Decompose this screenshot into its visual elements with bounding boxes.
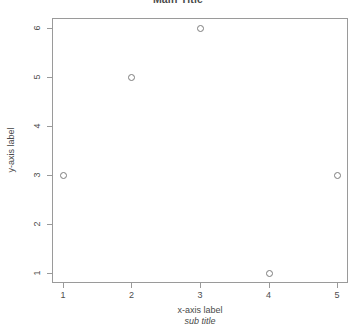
- chart-sub-title: sub title: [52, 316, 348, 326]
- data-point: [60, 172, 67, 179]
- plot-data-area: [52, 18, 348, 283]
- scatter-plot-figure: Main Title 12345123456 x-axis label sub …: [0, 0, 356, 335]
- x-axis-tick-label: 1: [60, 290, 65, 300]
- x-axis-tick: [63, 283, 64, 288]
- data-point: [128, 74, 135, 81]
- x-axis-tick-label: 5: [335, 290, 340, 300]
- y-axis-tick-label: 3: [32, 169, 42, 181]
- y-axis-tick-label: 2: [32, 218, 42, 230]
- x-axis-tick: [337, 283, 338, 288]
- x-axis-tick-label: 2: [129, 290, 134, 300]
- x-axis-label: x-axis label: [52, 305, 348, 315]
- x-axis-tick-label: 3: [197, 290, 202, 300]
- y-axis-tick: [47, 175, 52, 176]
- y-axis-label: y-axis label: [6, 127, 16, 172]
- y-axis-tick: [47, 224, 52, 225]
- data-point: [266, 270, 273, 277]
- x-axis-tick: [269, 283, 270, 288]
- x-axis-tick-label: 4: [266, 290, 271, 300]
- y-axis-tick: [47, 126, 52, 127]
- y-axis-tick: [47, 28, 52, 29]
- y-axis-tick-label: 5: [32, 71, 42, 83]
- y-axis-tick: [47, 77, 52, 78]
- y-axis-tick-label: 4: [32, 120, 42, 132]
- data-point: [197, 25, 204, 32]
- y-axis-tick-label: 1: [32, 267, 42, 279]
- data-point: [334, 172, 341, 179]
- y-axis-tick: [47, 273, 52, 274]
- y-axis-tick-label: 6: [32, 22, 42, 34]
- x-axis-tick: [131, 283, 132, 288]
- x-axis-tick: [200, 283, 201, 288]
- chart-title: Main Title: [0, 0, 356, 5]
